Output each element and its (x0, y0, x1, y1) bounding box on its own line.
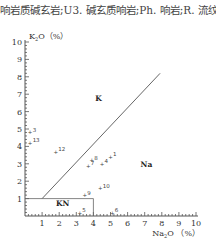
data-point-label: 5 (82, 207, 86, 213)
data-point-label: 10 (103, 183, 110, 189)
x-axis-title: Na2O （%） (152, 229, 200, 239)
data-point-label: 13 (33, 137, 40, 143)
x-tick-label: 5 (108, 219, 113, 228)
x-tick-label: 1 (40, 219, 45, 228)
x-tick-label: 6 (125, 219, 130, 228)
field-label-k: K (95, 94, 102, 103)
data-point-label: 4 (104, 158, 108, 164)
y-tick-label: 8 (17, 73, 22, 82)
y-tick-label: 9 (17, 55, 22, 64)
x-tick-label: 10 (191, 219, 201, 228)
x-tick-label: 8 (159, 219, 164, 228)
data-point-label: 6 (115, 207, 119, 213)
x-tick-label: 4 (91, 219, 96, 228)
y-tick-label: 7 (17, 90, 22, 99)
y-tick-label: 5 (17, 125, 22, 134)
y-tick-label: 10 (12, 38, 22, 47)
y-axis-title: K2O（%） (29, 32, 68, 42)
x-tick-label: 7 (142, 219, 147, 228)
y-tick-label: 6 (17, 108, 22, 117)
field-label-na: Na (141, 160, 153, 169)
x-tick-label: 9 (176, 219, 181, 228)
data-point-label: 1 (113, 151, 117, 157)
data-point-label: 9 (87, 190, 91, 196)
x-tick-label: 3 (74, 219, 79, 228)
y-tick-label: 4 (17, 142, 22, 151)
data-point-label: 12 (58, 146, 65, 152)
field-label-kn: KN (56, 199, 70, 208)
y-tick-label: 2 (17, 177, 22, 186)
data-point-label: 3 (33, 127, 37, 133)
y-tick-label: 1 (17, 195, 22, 204)
k2o-na2o-chart: 1234567891012345678910K2O（%）Na2O （%）KNaK… (0, 0, 216, 252)
x-tick-label: 2 (57, 219, 62, 228)
data-point-label: 8 (94, 155, 98, 161)
y-tick-label: 3 (17, 160, 22, 169)
k-na-boundary-line (42, 73, 160, 198)
